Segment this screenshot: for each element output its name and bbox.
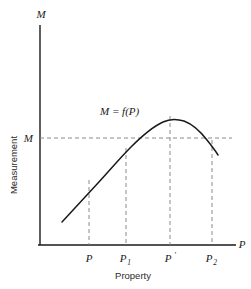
- x-tick-label-P-prime: P: [164, 252, 172, 264]
- x-tick-label-P-prime-mark: ': [174, 251, 176, 260]
- x-tick-label-P: P: [85, 252, 93, 264]
- x-tick-label-P2: P: [205, 252, 213, 264]
- x-axis-symbol: P: [238, 238, 246, 250]
- x-tick-label-P1-subscript: 1: [127, 258, 131, 267]
- x-tick-label-P1: P: [119, 252, 127, 264]
- chart-figure: M P M P P 1 P ' P 2 M = f(P) Property Me…: [0, 0, 251, 289]
- plot-area: M P M P P 1 P ' P 2 M = f(P) Property Me…: [0, 0, 251, 289]
- y-axis-symbol: M: [35, 8, 46, 20]
- x-tick-label-P2-subscript: 2: [213, 258, 217, 267]
- curve-m-of-p: [62, 120, 218, 222]
- curve-annotation-label: M = f(P): [99, 105, 140, 118]
- y-tick-label-M: M: [23, 132, 34, 144]
- x-axis-title: Property: [115, 270, 151, 281]
- y-axis-title: Measurement: [8, 136, 19, 194]
